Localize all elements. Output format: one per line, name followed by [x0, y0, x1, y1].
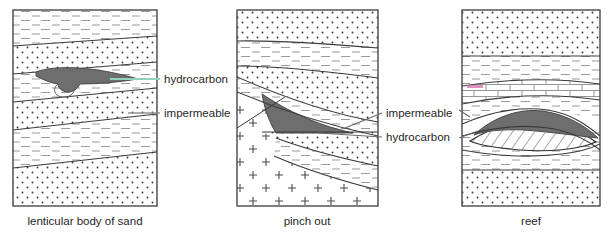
- panel-reef-body: [462, 10, 600, 206]
- label-impermeable-pinchout: impermeable: [386, 107, 452, 119]
- layer-sand-top: [462, 10, 600, 56]
- layer-sand-base: [462, 170, 600, 206]
- pink-highlight-mark: [467, 85, 483, 88]
- panel-pinchout-body: [237, 10, 378, 206]
- label-hydrocarbon-pinchout: hydrocarbon: [386, 131, 450, 143]
- panel-caption-reef: reef: [521, 215, 542, 227]
- stratigraphic-trap-diagram: lenticular body of sand: [0, 0, 614, 234]
- label-impermeable-lenticular: impermeable: [164, 107, 230, 119]
- panel-caption-pinchout: pinch out: [284, 215, 331, 227]
- label-hydrocarbon-lenticular: hydrocarbon: [164, 73, 228, 85]
- panel-lenticular-body: [13, 10, 157, 206]
- panel-pinchout: pinch out: [237, 10, 378, 227]
- panel-caption-lenticular: lenticular body of sand: [27, 215, 142, 227]
- figure-root: lenticular body of sand: [0, 0, 614, 234]
- panel-lenticular: lenticular body of sand: [13, 10, 157, 227]
